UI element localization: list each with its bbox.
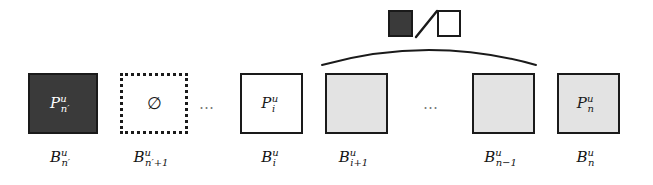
block-1-caption: Bun′ (28, 150, 98, 165)
block-sequence-figure: Pun′ ∅ … Pui … Pun Bun′ Bun′+1 Bui Bui+1… (0, 0, 653, 185)
ellipsis-2: … (423, 97, 440, 112)
block-1: Pun′ (28, 73, 98, 134)
group-span-arc (318, 40, 540, 68)
block-6: Pun (557, 73, 620, 134)
block-2-caption: Bun′+1 (120, 150, 188, 165)
ellipsis-1: … (199, 97, 216, 112)
block-2-empty-set-glyph: ∅ (147, 95, 162, 112)
block-5-caption: Bun−1 (472, 150, 535, 165)
block-4 (325, 73, 388, 134)
block-1-inner-label: Pun′ (50, 96, 76, 111)
block-6-caption: Bun (557, 150, 620, 165)
block-4-caption: Bui+1 (325, 150, 388, 165)
block-3-caption: Bui (240, 150, 303, 165)
block-6-inner-label: Pun (577, 96, 601, 111)
legend-dark-swatch (388, 10, 413, 37)
legend-light-swatch (437, 10, 461, 37)
block-2: ∅ (120, 73, 188, 134)
block-3: Pui (240, 73, 303, 134)
block-3-inner-label: Pui (261, 96, 281, 111)
block-5 (472, 73, 535, 134)
